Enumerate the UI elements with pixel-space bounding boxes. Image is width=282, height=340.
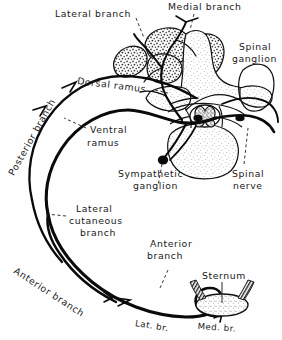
label-ventral-ramus-line2: ramus (87, 137, 119, 149)
sympathetic-ganglion-node (158, 155, 168, 164)
label-ventral-ramus-line1: Ventral (90, 124, 127, 136)
label-anterior-branch-mid-line1: Anterior (150, 238, 192, 250)
label-anterior-branch-mid-line2: branch (147, 250, 183, 262)
leader-lateral-branch (136, 18, 144, 38)
label-sympathetic-ganglion-line1: Sympathetic (118, 168, 183, 180)
label-lateral-cutaneous-line1: Lateral (76, 203, 113, 215)
label-lateral-cutaneous-line3: branch (80, 227, 116, 239)
leader-spinal-nerve (244, 128, 248, 164)
dorsal-root-node (193, 115, 202, 121)
leader-anterior-branch (160, 270, 168, 288)
label-lateral-cutaneous-line2: cutaneous (69, 215, 123, 227)
spinal-ganglion-node (235, 115, 244, 121)
label-spinal-ganglion-line1: Spinal (239, 41, 271, 53)
label-sternum: Sternum (202, 270, 246, 282)
label-spinal-ganglion-line2: ganglion (232, 53, 277, 65)
label-medial-branch: Medial branch (168, 1, 242, 13)
label-spinal-nerve-line2: nerve (233, 180, 263, 192)
label-lateral-branch: Lateral branch (55, 8, 131, 20)
label-spinal-nerve-line1: Spinal (232, 168, 264, 180)
label-sympathetic-ganglion-line2: ganglion (133, 180, 178, 192)
anatomy-figure: Lateral branch Medial branch Spinal gang… (0, 0, 282, 340)
leader-medial-branch (190, 14, 194, 30)
